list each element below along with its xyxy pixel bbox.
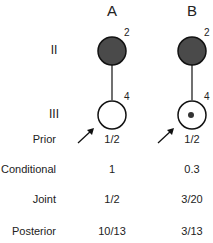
- affected-female-a: [98, 37, 126, 65]
- generation-ii-label: II: [39, 43, 69, 57]
- row-label-joint: Joint: [0, 193, 56, 205]
- generation-iii-label: III: [39, 107, 69, 121]
- column-a-header: A: [97, 2, 127, 19]
- column-b-header: B: [177, 2, 207, 19]
- individual-number-a-iii: 4: [124, 91, 130, 102]
- pedigree-graphic: [0, 0, 213, 243]
- posterior-b: 3/13: [167, 225, 213, 237]
- joint-a: 1/2: [87, 193, 137, 205]
- row-label-conditional: Conditional: [0, 163, 56, 175]
- affected-female-b: [178, 37, 206, 65]
- conditional-b: 0.3: [167, 163, 213, 175]
- joint-b: 3/20: [167, 193, 213, 205]
- prior-a: 1/2: [87, 133, 137, 145]
- conditional-a: 1: [87, 163, 137, 175]
- prior-b: 1/2: [167, 133, 213, 145]
- posterior-a: 10/13: [87, 225, 137, 237]
- individual-number-b-iii: 4: [204, 91, 210, 102]
- row-label-prior: Prior: [0, 133, 56, 145]
- individual-number-b-ii: 2: [204, 27, 210, 38]
- individual-number-a-ii: 2: [124, 27, 130, 38]
- row-label-posterior: Posterior: [0, 225, 56, 237]
- unaffected-female-a: [98, 101, 126, 129]
